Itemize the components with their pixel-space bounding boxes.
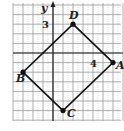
point-label-C: C (67, 107, 76, 120)
y-tick-label-3: 3 (42, 19, 49, 30)
point-label-B: B (15, 72, 25, 85)
x-tick-label-4: 4 (90, 58, 97, 69)
point-label-D: D (68, 9, 79, 22)
y-axis-arrow-icon (51, 1, 56, 7)
grid (13, 3, 123, 121)
point-D (70, 22, 75, 27)
point-A (110, 60, 115, 65)
point-C (60, 108, 65, 113)
coordinate-diagram: y 3 4 ABCD (0, 0, 124, 131)
y-axis-label: y (40, 2, 49, 15)
point-label-A: A (115, 59, 124, 72)
